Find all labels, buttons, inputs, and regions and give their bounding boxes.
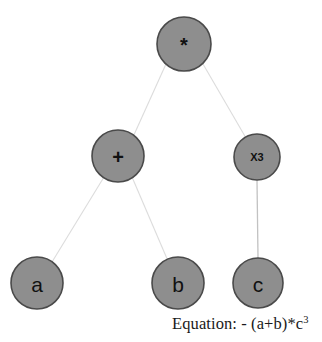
equation-caption-exponent: 3 (303, 314, 308, 325)
equation-caption-text: Equation: - (a+b)*c (172, 314, 303, 333)
tree-nodes-group: * + X3 a b c (11, 17, 283, 309)
tree-edge-plus-a (52, 177, 104, 262)
tree-edge-plus-b (132, 177, 168, 261)
tree-node-b[interactable]: b (152, 257, 204, 309)
equation-caption: Equation: - (a+b)*c3 (172, 314, 309, 334)
tree-edge-root-power (203, 64, 246, 138)
node-label-power: X3 (250, 151, 263, 163)
node-label-multiply: * (180, 34, 188, 56)
node-label-a: a (31, 273, 43, 296)
tree-edges-group (52, 64, 258, 262)
node-label-b: b (172, 273, 184, 296)
expression-tree-diagram: * + X3 a b c (0, 0, 322, 342)
tree-edge-root-plus (133, 64, 166, 137)
node-label-add: + (112, 146, 124, 168)
node-label-c: c (253, 273, 264, 296)
tree-node-a[interactable]: a (11, 257, 63, 309)
tree-node-add[interactable]: + (92, 130, 144, 182)
tree-edge-power-c (257, 180, 258, 258)
tree-node-multiply[interactable]: * (157, 17, 211, 71)
tree-node-power[interactable]: X3 (234, 134, 280, 180)
tree-node-c[interactable]: c (233, 258, 283, 308)
